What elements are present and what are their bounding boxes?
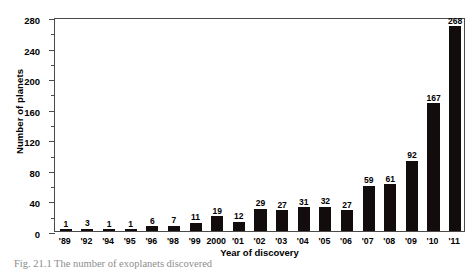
- x-tick-label: '06: [340, 236, 352, 246]
- bar: 19: [211, 216, 223, 231]
- x-tick-label: '95: [124, 236, 136, 246]
- bar-value-label: 6: [150, 217, 155, 226]
- bar-value-label: 61: [386, 175, 395, 184]
- bar-value-label: 268: [448, 17, 462, 26]
- y-tick-minor: [51, 95, 55, 96]
- bar-value-label: 167: [426, 94, 440, 103]
- y-tick-major: 160: [49, 111, 55, 112]
- y-tick-label: 120: [24, 137, 40, 148]
- bar: 92: [406, 161, 418, 231]
- x-tick-label: '89: [59, 236, 71, 246]
- y-tick-minor: [51, 65, 55, 66]
- bar-value-label: 12: [234, 212, 243, 221]
- y-tick-major: 200: [49, 80, 55, 81]
- x-tick-label: '08: [383, 236, 395, 246]
- bar-value-label: 31: [299, 198, 308, 207]
- bar-value-label: 59: [364, 176, 373, 185]
- bar-value-label: 11: [191, 213, 200, 222]
- bar: 29: [254, 209, 266, 231]
- x-tick-label: '10: [427, 236, 439, 246]
- bar: 7: [168, 226, 180, 231]
- bar: 6: [146, 226, 158, 231]
- y-tick-minor: [51, 157, 55, 158]
- y-tick-major: 0: [49, 233, 55, 234]
- bar: 268: [449, 26, 461, 231]
- x-tick-label: 2000: [206, 236, 226, 246]
- bar: 27: [276, 210, 288, 231]
- bar-value-label: 27: [277, 201, 286, 210]
- bar: 27: [341, 210, 353, 231]
- x-tick-label: '92: [80, 236, 92, 246]
- bar: 11: [190, 223, 202, 231]
- bar-value-label: 1: [63, 220, 68, 229]
- plot-area: 04080120160200240280 1311671119122927313…: [54, 18, 465, 232]
- y-tick-label: 0: [35, 229, 40, 240]
- bar: 1: [103, 229, 115, 231]
- bar-value-label: 3: [85, 219, 90, 228]
- y-tick-minor: [51, 187, 55, 188]
- y-tick-minor: [51, 218, 55, 219]
- y-tick-label: 160: [24, 106, 40, 117]
- x-axis-title: Year of discovery: [54, 247, 465, 258]
- x-tick-label: '96: [145, 236, 157, 246]
- x-tick-label: '01: [232, 236, 244, 246]
- figure-caption: Fig. 21.1 The number of exoplanets disco…: [14, 258, 464, 269]
- y-tick-major: 40: [49, 202, 55, 203]
- x-tick-label: '09: [405, 236, 417, 246]
- y-tick-label: 280: [24, 15, 40, 26]
- x-tick-label: '02: [254, 236, 266, 246]
- bar-value-label: 29: [256, 199, 265, 208]
- bar: 32: [319, 207, 331, 231]
- bar-value-label: 1: [107, 220, 112, 229]
- bar: 31: [298, 207, 310, 231]
- bar: 167: [427, 103, 439, 231]
- y-tick-major: 80: [49, 172, 55, 173]
- y-tick-label: 200: [24, 76, 40, 87]
- x-tick-label: '94: [102, 236, 114, 246]
- y-tick-minor: [51, 126, 55, 127]
- y-tick-label: 80: [29, 167, 40, 178]
- bar: 1: [60, 229, 72, 231]
- x-tick-label: '99: [189, 236, 201, 246]
- bar-value-label: 19: [212, 207, 221, 216]
- y-tick-minor: [51, 34, 55, 35]
- x-tick-label: '04: [297, 236, 309, 246]
- x-tick-label: '03: [275, 236, 287, 246]
- x-tick-label: '11: [448, 236, 459, 246]
- bar: 3: [81, 229, 93, 231]
- bar: 1: [125, 229, 137, 231]
- bar: 59: [363, 186, 375, 231]
- y-tick-major: 240: [49, 50, 55, 51]
- y-tick-label: 240: [24, 45, 40, 56]
- bar-value-label: 32: [321, 197, 330, 206]
- y-tick-major: 120: [49, 141, 55, 142]
- x-tick-label: '07: [362, 236, 374, 246]
- bar: 61: [384, 184, 396, 231]
- bar-value-label: 92: [407, 151, 416, 160]
- bar: 12: [233, 222, 245, 231]
- y-tick-major: 280: [49, 19, 55, 20]
- bar-value-label: 27: [342, 201, 351, 210]
- x-tick-label: '05: [318, 236, 330, 246]
- bar-value-label: 7: [172, 216, 177, 225]
- bar-value-label: 1: [128, 220, 133, 229]
- y-tick-label: 40: [29, 198, 40, 209]
- x-tick-label: '98: [167, 236, 179, 246]
- y-axis-title: Number of planets: [14, 37, 25, 187]
